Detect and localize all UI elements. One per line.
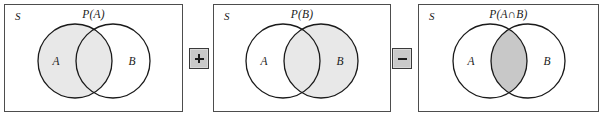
venn-svg-pa: A B <box>19 21 169 101</box>
probability-label-pb: P(B) <box>214 9 390 21</box>
set-b-label-3: B <box>543 55 550 67</box>
venn-svg-pa-intersect-b: A B <box>434 21 584 101</box>
minus-icon <box>398 54 407 63</box>
prob-label-suffix: B) <box>516 8 527 20</box>
venn-panel-pa: S P(A) A B <box>4 4 183 112</box>
set-a-label-1: A <box>51 55 60 67</box>
operator-minus <box>392 48 412 69</box>
venn-svg-pb: A B <box>227 21 377 101</box>
probability-label-pa: P(A) <box>5 9 182 21</box>
venn-diagram-figure: S P(A) A B S P(B) A B <box>0 0 607 119</box>
set-a-label-2: A <box>259 55 268 67</box>
probability-label-pa-intersect-b: P(A∩B) <box>419 9 598 21</box>
prob-label-prefix: P(A <box>489 8 507 20</box>
set-b-label-2: B <box>336 55 343 67</box>
plus-icon <box>195 54 204 63</box>
set-a-label-3: A <box>466 55 475 67</box>
operator-plus <box>189 48 209 69</box>
venn-panel-pa-intersect-b: S P(A∩B) A B <box>418 4 599 112</box>
set-b-label-1: B <box>128 55 135 67</box>
venn-panel-pb: S P(B) A B <box>213 4 391 112</box>
